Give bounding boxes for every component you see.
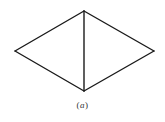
caption-close-paren: ) [85,100,89,110]
figure-caption: (a) [0,100,165,110]
edge-left-top [15,11,84,51]
edge-right-bottom [84,51,154,91]
edge-bottom-left [15,51,84,91]
figure: (a) [0,0,165,122]
edge-top-right [84,11,154,51]
